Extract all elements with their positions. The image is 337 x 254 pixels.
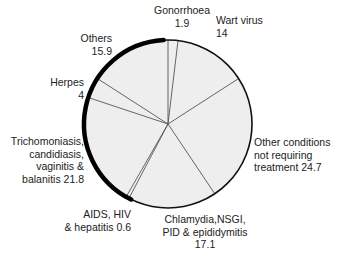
label-wart-virus-name: Wart virus bbox=[216, 14, 263, 27]
label-others-value: 15.9 bbox=[60, 45, 112, 58]
label-chlamydia-line2: PID & epididymitis bbox=[150, 226, 260, 239]
label-chlamydia: Chlamydia,NSGI, PID & epididymitis 17.1 bbox=[150, 213, 260, 251]
label-trichomoniasis-line2: candidiasis, bbox=[0, 148, 84, 161]
label-other-conditions: Other conditions not requiring treatment… bbox=[254, 136, 330, 174]
label-trichomoniasis-line1: Trichomoniasis, bbox=[0, 135, 84, 148]
label-other-conditions-line1: Other conditions bbox=[254, 136, 330, 149]
label-others: Others 15.9 bbox=[60, 32, 112, 57]
label-herpes-value: 4 bbox=[40, 89, 84, 102]
label-other-conditions-line3: treatment 24.7 bbox=[254, 161, 330, 174]
label-trichomoniasis-line4: balanitis 21.8 bbox=[0, 173, 84, 186]
label-aids-line2: & hepatitis 0.6 bbox=[60, 221, 131, 234]
label-other-conditions-line2: not requiring bbox=[254, 149, 330, 162]
label-herpes: Herpes 4 bbox=[40, 76, 84, 101]
label-trichomoniasis: Trichomoniasis, candidiasis, vaginitis &… bbox=[0, 135, 84, 185]
label-herpes-name: Herpes bbox=[40, 76, 84, 89]
label-chlamydia-line1: Chlamydia,NSGI, bbox=[150, 213, 260, 226]
label-wart-virus-value: 14 bbox=[216, 27, 263, 40]
label-wart-virus: Wart virus 14 bbox=[216, 14, 263, 39]
label-gonorrhoea-value: 1.9 bbox=[152, 17, 212, 30]
label-aids-hiv: AIDS, HIV & hepatitis 0.6 bbox=[60, 208, 131, 233]
label-chlamydia-line3: 17.1 bbox=[150, 238, 260, 251]
label-others-name: Others bbox=[60, 32, 112, 45]
label-gonorrhoea-name: Gonorrhoea bbox=[152, 4, 212, 17]
label-gonorrhoea: Gonorrhoea 1.9 bbox=[152, 4, 212, 29]
label-aids-line1: AIDS, HIV bbox=[60, 208, 131, 221]
label-trichomoniasis-line3: vaginitis & bbox=[0, 160, 84, 173]
